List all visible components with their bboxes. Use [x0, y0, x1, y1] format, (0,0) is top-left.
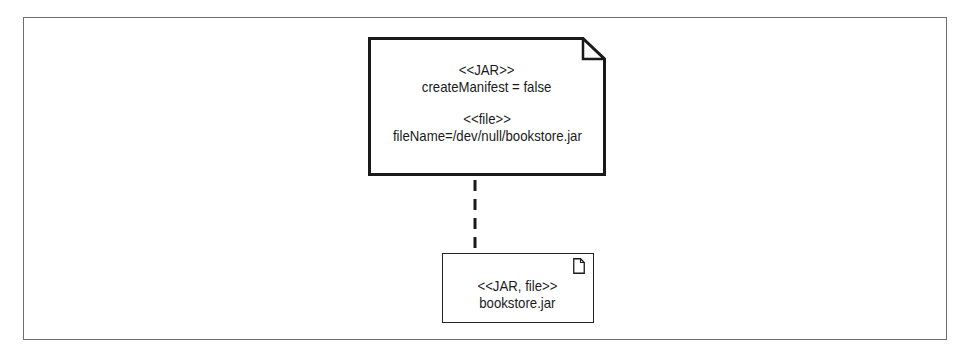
file-icon — [573, 258, 585, 274]
note-property-create-manifest: createManifest = false — [368, 79, 606, 95]
tagged-value-note: <<JAR>> createManifest = false <<file>> … — [368, 37, 606, 176]
artifact-bookstore-jar: <<JAR, file>> bookstore.jar — [442, 253, 594, 323]
note-property-file-name: fileName=/dev/null/bookstore.jar — [368, 128, 606, 144]
note-stereotype-jar: <<JAR>> — [368, 62, 606, 78]
artifact-name: bookstore.jar — [443, 295, 592, 311]
artifact-stereotype: <<JAR, file>> — [443, 278, 592, 294]
dashed-connector — [473, 176, 477, 254]
note-shape — [368, 37, 606, 176]
note-stereotype-file: <<file>> — [368, 111, 606, 127]
